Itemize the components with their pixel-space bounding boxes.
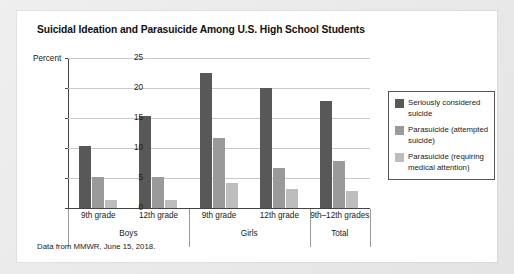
category-label: 9th grade (189, 211, 249, 220)
bar (346, 191, 358, 208)
group-label: Boys (68, 229, 189, 238)
y-tick-label: 20 (113, 83, 143, 92)
y-tick-label: 5 (113, 173, 143, 182)
chart-legend: Seriously considered suicide Parasuicide… (388, 91, 495, 180)
page-title: Suicidal Ideation and Parasuicide Among … (37, 24, 365, 35)
y-tick-label: 15 (113, 113, 143, 122)
legend-swatch-icon (395, 126, 404, 135)
y-tick-mark (65, 118, 68, 119)
bar (260, 88, 272, 208)
group-separator (370, 209, 371, 247)
y-tick-label: 10 (113, 143, 143, 152)
y-axis-title: Percent (33, 54, 61, 63)
legend-item: Parasuicide (attempted suicide) (395, 125, 489, 146)
y-axis-line (68, 58, 69, 208)
plot-area (68, 58, 370, 208)
group-label: Total (310, 229, 370, 238)
figure-root: Suicidal Ideation and Parasuicide Among … (0, 0, 514, 274)
chart-card: Suicidal Ideation and Parasuicide Among … (17, 11, 497, 262)
bar (152, 177, 164, 208)
legend-swatch-icon (395, 99, 404, 108)
y-tick-mark (65, 58, 68, 59)
y-tick-mark (65, 88, 68, 89)
bar (92, 177, 104, 208)
bar (286, 189, 298, 208)
bar (213, 138, 225, 208)
legend-label: Parasuicide (requiring medical attention… (408, 152, 489, 173)
legend-label: Parasuicide (attempted suicide) (408, 125, 489, 146)
bar (273, 168, 285, 208)
bar (226, 183, 238, 208)
category-label: 12th grade (128, 211, 188, 220)
bar (139, 116, 151, 208)
y-tick-mark (65, 178, 68, 179)
bar (79, 146, 91, 208)
group-label: Girls (189, 229, 310, 238)
legend-item: Seriously considered suicide (395, 98, 489, 119)
category-label: 12th grade (249, 211, 309, 220)
source-note: Data from MMWR, June 15, 2018. (37, 242, 155, 251)
bar (320, 101, 332, 208)
y-tick-label: 25 (113, 53, 143, 62)
bar (200, 73, 212, 208)
y-tick-label: 0 (113, 203, 143, 212)
bar (165, 200, 177, 208)
legend-label: Seriously considered suicide (408, 98, 489, 119)
category-label: 9th grade (68, 211, 128, 220)
legend-item: Parasuicide (requiring medical attention… (395, 152, 489, 173)
legend-swatch-icon (395, 153, 404, 162)
category-label: 9th–12th grades (310, 211, 370, 220)
bar (333, 161, 345, 208)
y-tick-mark (65, 148, 68, 149)
